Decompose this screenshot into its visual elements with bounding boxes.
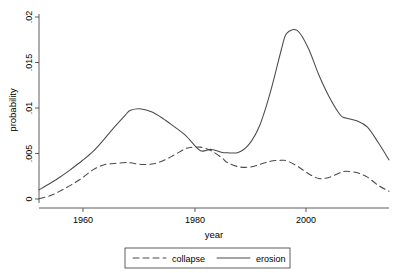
x-tick-label-0: 1960 [73,215,93,225]
y-tick-label-1: .005 [24,145,34,163]
y-axis-title: probability [7,88,18,132]
chart-container: 0 .005 .01 .015 .02 probability 1960 198… [0,0,394,273]
legend-label-collapse: collapse [172,254,205,264]
x-axis-ticks: 1960 1980 2000 [73,208,316,225]
series-line-collapse [39,147,389,199]
series-line-erosion [39,30,389,190]
chart-legend: collapse erosion [125,248,290,268]
y-tick-label-4: .02 [24,11,34,24]
y-tick-label-2: .01 [24,102,34,115]
y-tick-label-3: .015 [24,54,34,72]
x-tick-label-2: 2000 [296,215,316,225]
x-tick-label-1: 1980 [185,215,205,225]
line-chart: 0 .005 .01 .015 .02 probability 1960 198… [0,0,394,273]
legend-label-erosion: erosion [256,254,286,264]
y-axis-ticks: 0 .005 .01 .015 .02 [24,11,39,202]
y-tick-label-0: 0 [24,196,34,201]
x-axis-title: year [205,229,223,240]
